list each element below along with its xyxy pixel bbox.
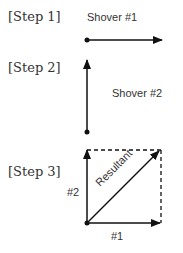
- vector-2-label: #2: [67, 186, 79, 198]
- step2-vector: [85, 60, 90, 135]
- shover-2-label: Shover #2: [112, 87, 162, 99]
- vector-diagram: [0, 0, 183, 253]
- vector-1-label: #1: [111, 230, 123, 242]
- step-1-label: [Step 1]: [8, 9, 61, 24]
- step-3-label: [Step 3]: [8, 164, 61, 179]
- shover-1-label: Shover #1: [87, 11, 137, 23]
- step1-vector: [85, 38, 163, 43]
- step-2-label: [Step 2]: [8, 60, 61, 75]
